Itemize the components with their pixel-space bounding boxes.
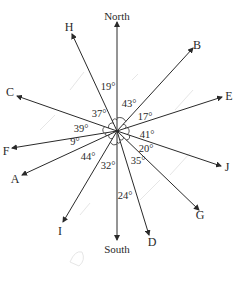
ray-label-d: D — [148, 235, 157, 249]
angle-label: 43° — [122, 98, 137, 109]
angle-arc — [109, 135, 113, 139]
ray-label-f: F — [3, 144, 10, 158]
angle-arc — [105, 133, 107, 136]
angle-arc — [117, 117, 126, 121]
ray-label-e: E — [225, 89, 232, 103]
angle-label: 37° — [92, 108, 107, 119]
angle-label: 17° — [138, 111, 153, 122]
angle-arc — [110, 142, 117, 145]
ray-label-g: G — [196, 208, 205, 222]
angle-label: 19° — [101, 81, 116, 92]
angle-label: 24° — [118, 190, 133, 201]
ray-f — [12, 131, 117, 148]
angle-arc — [112, 119, 117, 121]
ray-label-south: South — [104, 243, 130, 255]
angle-label: 35° — [131, 155, 146, 166]
diagram-canvas: NorthHBCEFAJGISouthD 19°43°37°17°39°41°9… — [0, 0, 237, 287]
angle-label: 41° — [140, 129, 155, 140]
ray-label-a: A — [11, 172, 20, 186]
angle-label: 20° — [139, 143, 154, 154]
angle-arc — [126, 135, 129, 140]
ray-label-j: J — [225, 160, 230, 174]
angle-arc — [103, 127, 105, 133]
angle-label: 44° — [81, 151, 96, 162]
angle-label: 39° — [74, 123, 89, 134]
angle-label: 9° — [70, 136, 79, 147]
ray-label-c: C — [6, 85, 14, 99]
angle-label: 32° — [101, 160, 116, 171]
angle-arc — [123, 124, 126, 128]
angle-arc — [127, 128, 129, 135]
ray-label-b: B — [193, 38, 201, 52]
ray-label-north: North — [104, 10, 130, 22]
ray-label-i: I — [58, 224, 62, 238]
ray-label-h: H — [65, 20, 74, 34]
angle-arc — [120, 137, 124, 140]
compass-angle-diagram: NorthHBCEFAJGISouthD 19°43°37°17°39°41°9… — [0, 0, 237, 287]
angle-labels: 19°43°37°17°39°41°9°20°44°32°35°24° — [70, 81, 154, 201]
angle-arc — [108, 123, 113, 128]
ray-group — [12, 22, 222, 240]
